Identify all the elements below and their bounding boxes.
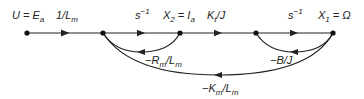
gain-x2-n4: Kt/J <box>207 10 225 24</box>
label-node-x2: X2 = Ia <box>163 10 195 24</box>
gain-feedback-km: −Km/Lm <box>202 83 238 97</box>
gain-feedback-bj: −B/J <box>270 55 292 66</box>
edge-feedback-km <box>103 33 333 75</box>
gain-feedback-rm: −Rm/Lm <box>145 55 182 69</box>
gain-u-n2: 1/Lm <box>56 10 78 24</box>
label-node-x1: X1 = Ω <box>318 10 351 24</box>
node-n2 <box>100 30 105 35</box>
gain-n2-x2: s−1 <box>135 8 150 21</box>
edge-feedback-rm <box>103 33 180 52</box>
arrow-km-icon <box>214 72 222 78</box>
label-node-u: U = Ea <box>12 10 44 24</box>
node-x1 <box>330 30 335 35</box>
node-n4 <box>253 30 258 35</box>
gain-n4-x1: s−1 <box>288 8 303 21</box>
arrow-rm-icon <box>137 49 145 55</box>
node-x2 <box>177 30 182 35</box>
edge-feedback-bj <box>256 33 333 52</box>
node-u <box>24 30 29 35</box>
